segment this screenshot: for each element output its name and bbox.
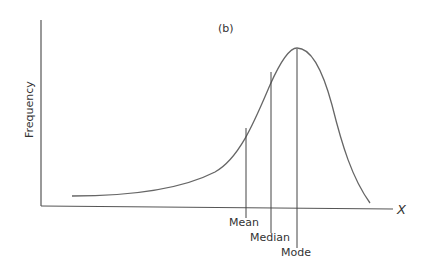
- x-axis: [41, 206, 393, 209]
- y-axis-label: Frequency: [23, 81, 36, 138]
- x-axis-label: X: [396, 202, 407, 217]
- mean-label: Mean: [229, 216, 259, 229]
- median-label: Median: [250, 231, 290, 244]
- skewed-distribution-diagram: (b) Frequency X Mean Median Mode: [0, 0, 429, 267]
- distribution-curve: [72, 48, 370, 203]
- mode-label: Mode: [281, 246, 311, 259]
- panel-label: (b): [218, 22, 234, 35]
